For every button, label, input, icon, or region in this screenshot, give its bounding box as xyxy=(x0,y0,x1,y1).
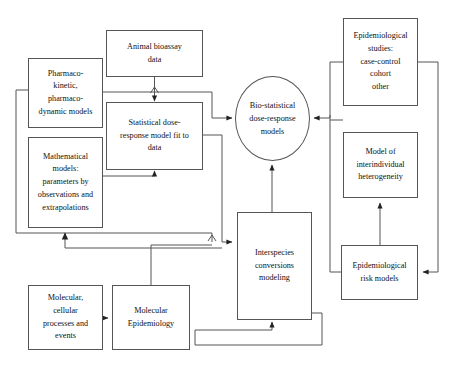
node-label-line: extrapolations xyxy=(31,202,100,215)
node-epidemiological-risk-models[interactable]: Epidemiologicalrisk models xyxy=(341,245,418,300)
node-label-line: conversions xyxy=(240,260,309,273)
edge-statistical-to-biostatistical xyxy=(203,135,232,242)
node-label-line: Molecular xyxy=(115,305,187,318)
node-label-line: kinetic, xyxy=(31,80,100,93)
edge-molecular-epidemiology-to-mathematical xyxy=(65,233,222,248)
node-label-line: risk models xyxy=(344,273,415,286)
edge-epi-risk-feeder xyxy=(330,125,341,272)
node-label-line: Statistical dose- xyxy=(109,117,200,130)
node-molecular-epidemiology[interactable]: MolecularEpidemiology xyxy=(112,285,190,350)
node-epidemiological-studies[interactable]: Epidemiologicalstudies:case-controlcohor… xyxy=(343,18,418,106)
node-label-line: dynamic models xyxy=(31,106,100,119)
node-label-line: modeling xyxy=(240,272,309,285)
edge-molecular-epidemiology-to-interspecies xyxy=(151,245,212,285)
node-label-line: case-control xyxy=(346,56,415,69)
node-bio-statistical-dose-response-models[interactable]: Bio-statisticaldose-responsemodels xyxy=(235,76,310,161)
node-label-line: observations and xyxy=(31,189,100,202)
node-label-line: events xyxy=(31,330,100,343)
node-label-line: cohort xyxy=(346,68,415,81)
edge-epi-studies-to-epi-risk xyxy=(418,62,438,272)
node-label-line: processes and xyxy=(31,318,100,331)
node-label-line: Pharmaco- xyxy=(31,68,100,81)
node-animal-bioassay-data[interactable]: Animal bioassaydata xyxy=(106,30,203,77)
node-label-line: other xyxy=(346,81,415,94)
node-label-line: models: xyxy=(31,163,100,176)
node-label-line: Interspecies xyxy=(240,247,309,260)
diagram-canvas: Animal bioassaydata Pharmaco-kinetic,pha… xyxy=(0,0,454,373)
node-label-line: interindividual xyxy=(346,159,415,172)
node-label-line: studies: xyxy=(346,43,415,56)
node-pharmacokinetic-pharmacodynamic-models[interactable]: Pharmaco-kinetic,pharmaco-dynamic models xyxy=(28,58,103,128)
node-label-line: data xyxy=(109,54,200,67)
node-label-line: Mathematical xyxy=(31,151,100,164)
node-label-line: response model fit to xyxy=(109,130,200,143)
node-label-line: cellular xyxy=(31,305,100,318)
edge-mathematical-to-statistical xyxy=(103,171,155,176)
node-label-line: models xyxy=(249,125,295,138)
node-label-line: dose-response xyxy=(249,112,295,125)
node-label-line: Epidemiological xyxy=(344,260,415,273)
node-molecular-cellular-processes-and-events[interactable]: Molecular,cellularprocesses andevents xyxy=(28,285,103,350)
node-interspecies-conversions-modeling[interactable]: Interspeciesconversionsmodeling xyxy=(237,212,312,320)
node-label-line: Epidemiology xyxy=(115,318,187,331)
node-mathematical-models-parameters[interactable]: Mathematicalmodels:parameters byobservat… xyxy=(28,137,103,228)
edge-epi-studies-to-biostatistical xyxy=(314,62,343,118)
node-label-line: Epidemiological xyxy=(346,30,415,43)
node-label-line: Molecular, xyxy=(31,292,100,305)
node-model-of-interindividual-heterogeneity[interactable]: Model ofinterindividualheterogeneity xyxy=(343,132,418,198)
node-label-line: heterogeneity xyxy=(346,171,415,184)
node-label-line: Bio-statistical xyxy=(249,99,295,112)
node-label-line: Model of xyxy=(346,146,415,159)
node-statistical-dose-response-model-fit-to-data[interactable]: Statistical dose-response model fit toda… xyxy=(106,102,203,170)
node-label-line: parameters by xyxy=(31,176,100,189)
node-label-line: Animal bioassay xyxy=(109,41,200,54)
node-label-line: pharmaco- xyxy=(31,93,100,106)
node-label-line: data xyxy=(109,142,200,155)
